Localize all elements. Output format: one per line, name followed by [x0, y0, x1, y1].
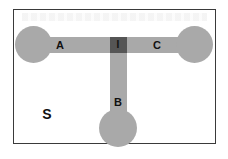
label-arm-b: B	[114, 97, 122, 108]
label-arm-a: A	[56, 40, 64, 51]
reservoir-right	[176, 26, 213, 63]
label-arm-c: C	[153, 40, 161, 51]
label-substrate-s: S	[42, 107, 51, 121]
label-junction-i: I	[117, 40, 120, 50]
reservoir-left	[15, 26, 52, 63]
faint-background-text	[22, 13, 207, 21]
reservoir-bottom	[99, 109, 137, 147]
